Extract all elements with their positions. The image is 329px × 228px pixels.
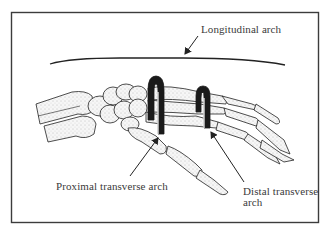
carpal-bone [129, 99, 147, 117]
hand-arches-diagram: Longitudinal arch Proximal transverse ar… [0, 0, 329, 228]
finger-index [222, 96, 257, 110]
thumb-distal-phalanx [196, 170, 228, 195]
proximal-transverse-arch-label: Proximal transverse arch [56, 180, 168, 192]
finger-middle [224, 108, 259, 126]
longitudinal-arrow [185, 36, 198, 54]
distal-transverse-arch-label-line2: arch [243, 196, 262, 208]
thumb-proximal-phalanx [166, 146, 202, 176]
distal-arrow [211, 132, 244, 182]
longitudinal-arch-curve [50, 58, 285, 65]
hand-skeleton [36, 84, 294, 195]
finger-ring [216, 122, 249, 140]
longitudinal-arch-label: Longitudinal arch [201, 23, 281, 35]
